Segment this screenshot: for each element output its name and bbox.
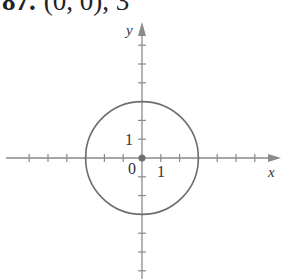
origin-label: 0 bbox=[128, 160, 136, 177]
y-axis-label: y bbox=[124, 22, 133, 38]
coordinate-plot: y x 1 1 0 bbox=[0, 0, 281, 279]
x-axis-arrow-icon bbox=[268, 154, 281, 162]
center-point bbox=[139, 155, 146, 162]
x-axis-label: x bbox=[267, 164, 275, 180]
x-tick-label-1: 1 bbox=[157, 163, 165, 180]
y-tick-label-1: 1 bbox=[125, 131, 133, 148]
y-axis-arrow-icon bbox=[138, 22, 146, 36]
axes bbox=[6, 22, 281, 279]
